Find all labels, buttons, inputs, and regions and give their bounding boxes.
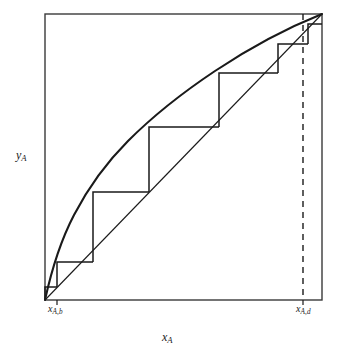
x-bottom-composition-label: xA,b (48, 303, 63, 316)
y-axis-label: yA (16, 148, 27, 163)
mccabe-thiele-diagram (0, 0, 344, 354)
x-axis-label: xA (162, 330, 173, 345)
figure-background (0, 0, 344, 354)
x-distillate-composition-label: xA,d (296, 303, 311, 316)
